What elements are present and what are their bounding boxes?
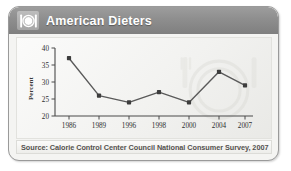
- y-tick-label: 40: [42, 45, 50, 53]
- x-tick-label: 2007: [238, 122, 253, 130]
- data-point-marker: [157, 90, 161, 94]
- x-tick-label: 1989: [92, 122, 107, 130]
- y-tick-label: 25: [42, 96, 50, 104]
- y-tick-label: 30: [42, 79, 50, 87]
- x-tick-label: 1998: [152, 122, 167, 130]
- x-tick-label: 1996: [122, 122, 137, 130]
- chart-plot-panel: 40 35 30 25 20 Percent 1986 1989: [16, 37, 272, 139]
- y-axis-title: Percent: [27, 77, 35, 100]
- line-chart: 40 35 30 25 20 Percent 1986 1989: [17, 38, 272, 139]
- american-dieters-chart-card: American Dieters: [8, 6, 279, 161]
- data-point-marker: [67, 56, 71, 60]
- data-point-marker: [127, 100, 131, 104]
- data-point-marker: [217, 70, 221, 74]
- x-tick-label: 2000: [182, 122, 197, 130]
- data-point-marker: [97, 94, 101, 98]
- data-point-marker: [187, 100, 191, 104]
- data-point-marker: [243, 83, 247, 87]
- y-axis-tick-labels: 40 35 30 25 20: [42, 45, 50, 121]
- source-note: Source: Calorie Control Center Council N…: [17, 143, 268, 152]
- x-axis-tick-labels: 1986 1989 1996 1998 2000 2004 2007: [62, 122, 253, 130]
- page-title: American Dieters: [46, 14, 152, 28]
- y-tick-label: 20: [42, 113, 50, 121]
- x-tick-label: 2004: [212, 122, 227, 130]
- x-tick-label: 1986: [62, 122, 77, 130]
- plate-with-utensils-icon: [17, 11, 39, 30]
- y-tick-label: 35: [42, 62, 50, 70]
- series-markers: [67, 56, 247, 104]
- series-line: [69, 58, 245, 102]
- card-footer: Source: Calorie Control Center Council N…: [16, 140, 272, 154]
- card-header: American Dieters: [9, 7, 278, 34]
